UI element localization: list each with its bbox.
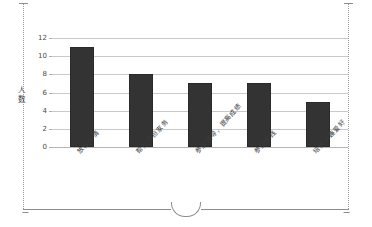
y-axis-tick-label: 0 xyxy=(43,143,47,151)
frame-bottom-edge xyxy=(23,209,349,222)
y-axis-tick-label: 8 xyxy=(43,70,47,78)
bar xyxy=(70,47,94,147)
x-axis-labels: 放松心情帮忙分担家务参加辅导，提高成绩参加实践培养兴趣爱好 xyxy=(52,150,348,202)
frame-bottom-notch xyxy=(171,202,201,217)
y-axis-tick-label: 4 xyxy=(43,107,47,115)
bar-chart: 人数 024681012 放松心情帮忙分担家务参加辅导，提高成绩参加实践培养兴趣… xyxy=(14,30,358,202)
y-axis-tick-label: 6 xyxy=(43,89,47,97)
y-axis-tick-label: 2 xyxy=(43,125,47,133)
frame-bottom-right-segment xyxy=(201,209,349,210)
y-axis-tick-mark xyxy=(49,147,52,148)
y-axis-title: 人数 xyxy=(16,86,26,104)
frame-bottom-left-segment xyxy=(23,209,171,210)
y-axis-tick-label: 10 xyxy=(38,52,47,60)
y-axis-tick-label: 12 xyxy=(38,34,47,42)
